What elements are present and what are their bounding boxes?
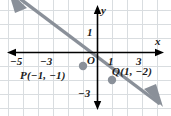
point-p-label: P(−1, −1) <box>20 70 66 81</box>
x-tick-label-neg5: −5 <box>10 56 22 67</box>
point-p-marker <box>79 62 87 70</box>
point-q-label: Q(1, −2) <box>112 66 152 77</box>
y-tick-label-1: 1 <box>87 27 93 38</box>
x-axis-label: x <box>155 36 161 47</box>
y-axis-label: y <box>101 5 106 16</box>
x-tick-label-neg3: −3 <box>40 56 52 67</box>
y-tick-label-neg3: −3 <box>78 88 90 99</box>
point-q-marker <box>108 76 116 84</box>
coordinate-plane-figure: y x 1 −3 −5 −3 1 3 O P(−1, −1) Q(1, −2) <box>0 0 171 116</box>
origin-label: O <box>87 55 95 66</box>
